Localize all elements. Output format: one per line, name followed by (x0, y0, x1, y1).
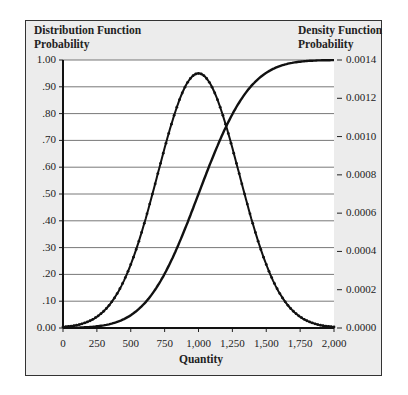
right-tick-label: 0.0002 (346, 283, 376, 295)
pdf-marker (116, 292, 119, 295)
pdf-marker (192, 74, 195, 77)
pdf-marker (276, 287, 279, 290)
x-tick-label: 2,000 (314, 337, 354, 349)
pdf-marker (110, 300, 113, 303)
pdf-marker (230, 142, 233, 145)
pdf-marker (297, 314, 300, 317)
pdf-marker (94, 316, 97, 319)
pdf-marker (132, 256, 135, 259)
pdf-marker (143, 222, 146, 225)
pdf-marker (314, 322, 317, 325)
pdf-marker (146, 212, 149, 215)
pdf-marker (140, 231, 143, 234)
pdf-marker (127, 270, 130, 273)
pdf-marker (178, 98, 181, 101)
pdf-marker (216, 98, 219, 101)
left-tick-label: .40 (42, 214, 56, 226)
pdf-marker (278, 292, 281, 295)
right-tick-label: 0.0008 (346, 168, 376, 180)
pdf-marker (221, 114, 224, 117)
pdf-marker (81, 322, 84, 325)
right-tick-label: 0.0000 (346, 321, 376, 333)
pdf-marker (270, 276, 273, 279)
pdf-marker (167, 132, 170, 135)
pdf-marker (162, 152, 165, 155)
left-tick-label: .30 (42, 241, 56, 253)
right-tick-label: 0.0004 (346, 244, 376, 256)
pdf-marker (113, 297, 116, 300)
pdf-marker (259, 248, 262, 251)
pdf-marker (89, 319, 92, 322)
left-tick-label: .80 (42, 107, 56, 119)
pdf-marker (102, 310, 105, 313)
pdf-marker (224, 123, 227, 126)
pdf-marker (124, 276, 127, 279)
pdf-marker (257, 240, 260, 243)
pdf-marker (316, 323, 319, 326)
pdf-marker (83, 322, 86, 325)
pdf-marker (311, 322, 314, 325)
pdf-marker (292, 310, 295, 313)
pdf-marker (129, 263, 132, 266)
pdf-marker (64, 325, 67, 328)
pdf-marker (194, 73, 197, 76)
pdf-marker (62, 326, 65, 329)
pdf-marker (203, 74, 206, 77)
pdf-marker (238, 172, 241, 175)
pdf-marker (295, 312, 298, 315)
pdf-marker (327, 325, 330, 328)
pdf-marker (235, 162, 238, 165)
pdf-marker (324, 325, 327, 328)
right-tick-label: 0.0010 (346, 130, 376, 142)
pdf-marker (70, 325, 73, 328)
pdf-marker (86, 321, 89, 324)
left-tick-label: .50 (42, 187, 56, 199)
pdf-marker (232, 152, 235, 155)
pdf-marker (333, 326, 336, 329)
pdf-marker (289, 307, 292, 310)
pdf-marker (208, 81, 211, 84)
pdf-marker (306, 319, 309, 322)
pdf-marker (75, 324, 78, 327)
left-tick-label: .20 (42, 267, 56, 279)
left-tick-label: .90 (42, 80, 56, 92)
pdf-marker (227, 132, 230, 135)
left-tick-label: 0.00 (37, 321, 56, 333)
pdf-marker (108, 304, 111, 307)
pdf-marker (91, 318, 94, 321)
pdf-marker (154, 182, 157, 185)
pdf-marker (287, 304, 290, 307)
pdf-marker (300, 316, 303, 319)
pdf-marker (165, 142, 168, 145)
pdf-marker (251, 222, 254, 225)
pdf-marker (137, 240, 140, 243)
pdf-marker (246, 203, 249, 206)
pdf-marker (173, 114, 176, 117)
pdf-marker (135, 248, 138, 251)
pdf-marker (322, 324, 325, 327)
pdf-marker (97, 314, 100, 317)
pdf-marker (254, 231, 257, 234)
pdf-marker (319, 324, 322, 327)
pdf-marker (72, 324, 75, 327)
pdf-marker (281, 297, 284, 300)
pdf-marker (284, 300, 287, 303)
pdf-marker (249, 212, 252, 215)
pdf-marker (186, 81, 189, 84)
pdf-marker (156, 172, 159, 175)
pdf-marker (189, 77, 192, 80)
pdf-marker (268, 270, 271, 273)
right-tick-label: 0.0006 (346, 206, 376, 218)
pdf-marker (197, 72, 200, 75)
pdf-marker (67, 325, 70, 328)
pdf-marker (273, 282, 276, 285)
pdf-marker (265, 263, 268, 266)
left-tick-label: .60 (42, 160, 56, 172)
pdf-marker (262, 256, 265, 259)
pdf-marker (78, 323, 81, 326)
pdf-marker (175, 106, 178, 109)
pdf-marker (105, 307, 108, 310)
pdf-marker (181, 92, 184, 95)
pdf-marker (119, 287, 122, 290)
pdf-marker (303, 318, 306, 321)
